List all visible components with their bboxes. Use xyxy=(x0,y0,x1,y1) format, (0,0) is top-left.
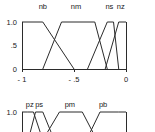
ytick-label: 1.0 xyxy=(7,108,17,117)
mf-curve-pm xyxy=(43,112,97,132)
tick-label-group: 1.0 xyxy=(7,108,17,117)
axis-frame xyxy=(22,22,126,69)
positive-mf-plot: pzpspmpb 1.0 xyxy=(0,98,155,132)
mf-label-group: pzpspmpb xyxy=(26,100,107,109)
mf-label-nz: nz xyxy=(117,2,125,11)
mf-curve-ps xyxy=(28,112,54,132)
axis-group xyxy=(22,22,126,69)
mf-label-pm: pm xyxy=(65,100,75,109)
membership-function-figure: nbnmnsnz 0.51.0- 1- .50 pzpspmpb 1.0 xyxy=(0,0,155,132)
mf-curve-group xyxy=(22,112,126,132)
xtick-label: - .5 xyxy=(69,75,80,84)
mf-label-nb: nb xyxy=(39,2,47,11)
chart-negative-membership: nbnmnsnz 0.51.0- 1- .50 xyxy=(0,0,155,98)
chart-positive-membership: pzpspmpb 1.0 xyxy=(0,98,155,132)
mf-curve-pb xyxy=(86,112,126,132)
mf-label-ps: ps xyxy=(35,100,43,109)
mf-label-nm: nm xyxy=(71,2,81,11)
mf-curve-ns xyxy=(88,22,119,69)
mf-label-ns: ns xyxy=(105,2,113,11)
tick-label-group: 0.51.0- 1- .50 xyxy=(7,18,129,84)
mf-label-pb: pb xyxy=(99,100,107,109)
mf-label-group: nbnmnsnz xyxy=(39,2,125,11)
xtick-label: - 1 xyxy=(18,75,27,84)
ytick-label: .5 xyxy=(11,41,17,50)
mf-label-pz: pz xyxy=(26,100,34,109)
ytick-label: 0 xyxy=(13,65,17,74)
xtick-label: 0 xyxy=(124,75,128,84)
axis-group xyxy=(22,112,126,132)
mf-curve-nb xyxy=(22,22,74,69)
negative-mf-plot: nbnmnsnz 0.51.0- 1- .50 xyxy=(0,0,155,98)
mf-curve-nz xyxy=(105,22,126,69)
mf-curve-group xyxy=(22,22,126,69)
mf-curve-pz xyxy=(22,112,43,132)
ytick-label: 1.0 xyxy=(7,18,17,27)
